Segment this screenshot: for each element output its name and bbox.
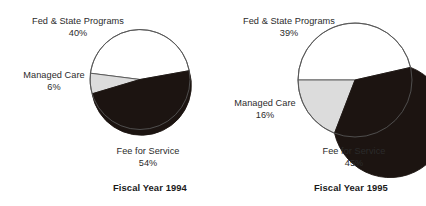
label-fed-state-programs-fy1995: Fed & State Programs 39% — [225, 16, 353, 39]
chart-panel-fy1994: Fed & State Programs 40% Managed Care 6%… — [0, 0, 213, 206]
label-fee-for-service-text: Fee for Service — [116, 146, 179, 156]
label-managed-care-pct: 6% — [4, 82, 104, 94]
label-fed-state-programs-text: Fed & State Programs — [243, 16, 335, 26]
pie-chart-figure: Fed & State Programs 40% Managed Care 6%… — [0, 0, 426, 206]
label-fed-state-programs-pct: 40% — [14, 28, 142, 40]
label-managed-care-fy1994: Managed Care 6% — [4, 70, 104, 93]
label-fed-state-programs-text: Fed & State Programs — [32, 16, 124, 26]
caption-fy1995: Fiscal Year 1995 — [314, 182, 388, 193]
label-fee-for-service-pct: 45% — [298, 158, 410, 170]
label-managed-care-fy1995: Managed Care 16% — [215, 98, 315, 121]
label-managed-care-text: Managed Care — [23, 70, 84, 80]
label-fed-state-programs-pct: 39% — [225, 28, 353, 40]
label-managed-care-text: Managed Care — [234, 98, 295, 108]
caption-fy1994: Fiscal Year 1994 — [113, 182, 187, 193]
label-fed-state-programs-fy1994: Fed & State Programs 40% — [14, 16, 142, 39]
label-fee-for-service-text: Fee for Service — [322, 146, 385, 156]
label-fee-for-service-pct: 54% — [92, 158, 204, 170]
chart-panel-fy1995: Fed & State Programs 39% Managed Care 16… — [213, 0, 426, 206]
label-fee-for-service-fy1995: Fee for Service 45% — [298, 146, 410, 169]
label-managed-care-pct: 16% — [215, 110, 315, 122]
label-fee-for-service-fy1994: Fee for Service 54% — [92, 146, 204, 169]
